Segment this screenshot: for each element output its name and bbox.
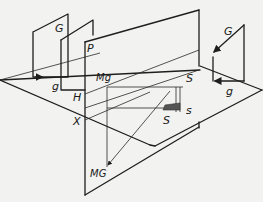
label-s: s bbox=[186, 104, 192, 117]
label-g-left: g bbox=[52, 80, 59, 93]
label-Mg: Mg bbox=[96, 72, 111, 83]
construction-lines bbox=[85, 87, 183, 167]
horizontal-plane bbox=[0, 66, 262, 146]
diagram-canvas: G g P H Mg X MG S S s G g bbox=[0, 0, 263, 202]
projection-diagram: G g P H Mg X MG S S s G g bbox=[0, 0, 263, 202]
label-S-upper: S bbox=[186, 72, 193, 85]
left-frame-g bbox=[61, 20, 93, 90]
label-G-right: G bbox=[224, 25, 233, 38]
label-S-lower: S bbox=[163, 114, 170, 127]
label-MG: MG bbox=[90, 168, 107, 179]
label-g-right: g bbox=[226, 85, 233, 98]
label-P: P bbox=[87, 42, 94, 55]
label-X: X bbox=[72, 115, 81, 128]
label-G-left: G bbox=[55, 22, 64, 35]
label-H: H bbox=[73, 91, 81, 104]
